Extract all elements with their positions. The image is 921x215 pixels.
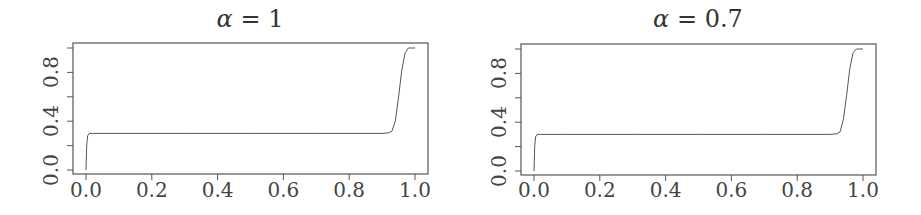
title-symbol: α	[217, 5, 233, 33]
y-tick-label: 0.4	[39, 105, 63, 137]
title-rest: = 0.7	[669, 5, 743, 33]
y-tick-label: 0.8	[39, 56, 63, 88]
chart-panel-alpha-0-7: α = 0.7 0.00.20.40.60.81.0 0.00.40.8	[448, 0, 908, 215]
title-symbol: α	[653, 5, 669, 33]
x-tick-label: 0.6	[267, 178, 299, 202]
y-tick-label: 0.4	[487, 106, 511, 138]
data-line	[534, 49, 863, 171]
x-tick-label: 0.2	[136, 178, 168, 202]
x-tick-label: 1.0	[847, 178, 879, 202]
x-tick-label: 0.2	[584, 178, 616, 202]
title-rest: = 1	[233, 5, 284, 33]
x-tick-label: 1.0	[399, 178, 431, 202]
y-tick-label: 0.0	[487, 155, 511, 187]
chart-title: α = 1	[217, 5, 284, 33]
x-tick-label: 0.8	[333, 178, 365, 202]
data-line	[86, 48, 415, 170]
plot-frame	[73, 43, 428, 174]
chart-panel-alpha-1: α = 1 0.00.20.40.60.81.0 0.00.40.8	[0, 0, 460, 215]
y-tick-label: 0.0	[39, 154, 63, 186]
x-tick-label: 0.4	[650, 178, 682, 202]
x-tick-label: 0.8	[781, 178, 813, 202]
x-tick-label: 0.0	[70, 178, 102, 202]
y-tick-label: 0.8	[487, 57, 511, 89]
x-tick-label: 0.0	[518, 178, 550, 202]
x-tick-label: 0.4	[202, 178, 234, 202]
chart-title: α = 0.7	[653, 5, 743, 33]
plot-frame	[521, 44, 876, 175]
x-tick-label: 0.6	[715, 178, 747, 202]
